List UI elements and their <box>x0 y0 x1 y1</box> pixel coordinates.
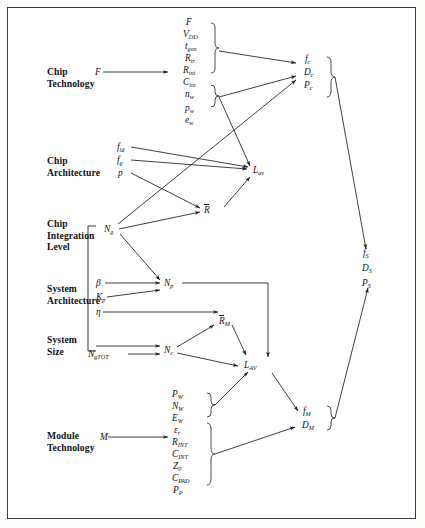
param-Ng: Ng <box>104 224 113 237</box>
node-L-AV: LAV <box>244 360 256 373</box>
param-F: F <box>186 17 192 28</box>
input-var-M: M <box>100 432 108 443</box>
edge-p-to-R-bar <box>131 173 200 208</box>
node-R-bar: R <box>204 205 210 216</box>
node-N-c: Nc <box>164 345 173 358</box>
edge-Kp-to-Np <box>107 290 160 297</box>
label-line-2: Technology <box>47 78 95 89</box>
edge-module-outputs-to-system-outputs <box>335 288 368 418</box>
edge-fg-to-L-av <box>131 160 247 169</box>
brace-module-lower <box>207 423 215 485</box>
node-L-av: Lav <box>253 165 264 178</box>
param-ew: ew <box>185 115 193 128</box>
output-PS: PS <box>362 278 371 291</box>
node-R-bar-M: RM <box>219 316 230 329</box>
label-line-1: System <box>47 334 77 345</box>
param-NgTOT: NgTOT <box>88 349 109 362</box>
edge-pw-ew-to-L-av <box>219 97 250 166</box>
output-Dc: Dc <box>304 67 314 80</box>
param-nw: nw <box>185 89 194 102</box>
label-line-2: Technology <box>47 442 95 453</box>
brace-module-outputs <box>327 406 335 430</box>
edge-fld-to-L-av <box>131 147 248 167</box>
label-line-1: Chip <box>47 155 68 166</box>
edge-Ng-to-Np <box>120 234 160 280</box>
row-label-system-size: SystemSize <box>47 334 77 357</box>
brace-module-upper <box>207 393 215 417</box>
label-line-1: Module <box>47 430 79 441</box>
figure-canvas: ChipTechnology ChipArchitecture ChipInte… <box>0 0 425 528</box>
row-label-chip-architecture: ChipArchitecture <box>47 155 100 178</box>
label-line-2: Integration <box>47 230 94 241</box>
brace-chip-tech-upper <box>211 23 219 73</box>
output-fM: fM <box>303 406 311 419</box>
param-beta: β <box>96 278 101 289</box>
edge-Nc-to-L-AV <box>177 353 238 366</box>
row-label-chip-technology: ChipTechnology <box>47 66 95 89</box>
edge-L-AV-to-module-outputs <box>272 373 298 411</box>
row-label-system-architecture: SystemArchitecture <box>47 283 100 306</box>
label-line-1: Chip <box>47 218 68 229</box>
output-fS: fS <box>363 248 369 261</box>
label-line-2: Architecture <box>47 295 100 306</box>
edge-module-lower-to-module-outputs <box>215 427 295 454</box>
label-line-2: Size <box>47 346 64 357</box>
param-eta: η <box>96 307 101 318</box>
edge-Ng-to-chip-outputs <box>118 80 296 224</box>
param-PP: PP <box>173 485 183 498</box>
label-line-1: System <box>47 283 77 294</box>
output-DS: DS <box>362 263 372 276</box>
edge-chip-outputs-to-system-outputs <box>335 77 366 249</box>
brace-chip-tech-lower <box>211 85 219 107</box>
edge-Nc-to-R-bar-M <box>177 325 214 347</box>
input-var-F: F <box>95 67 101 78</box>
edge-Ng-to-R-bar <box>119 212 200 229</box>
label-line-2: Architecture <box>47 167 100 178</box>
row-label-module-technology: ModuleTechnology <box>47 430 95 453</box>
node-N-p: Np <box>164 278 173 291</box>
param-p: p <box>118 168 123 179</box>
output-DM: DM <box>302 420 314 433</box>
edge-chip-params-to-chip-outputs <box>219 51 296 63</box>
row-label-chip-integration: ChipIntegrationLevel <box>47 218 94 253</box>
edge-pw-ew-to-chip-outputs <box>219 76 296 97</box>
param-fld: fld <box>117 142 124 155</box>
output-fc: fc <box>305 54 310 67</box>
label-line-3: Level <box>47 241 70 252</box>
edge-R-bar-to-L-av <box>224 177 250 207</box>
brace-chip-outputs <box>327 57 335 97</box>
label-line-1: Chip <box>47 66 68 77</box>
output-Pc: Pc <box>304 80 312 93</box>
edge-module-upper-to-L-AV <box>215 372 248 405</box>
param-fg: fg <box>117 155 123 168</box>
param-Kp: Kp <box>96 292 105 305</box>
edge-R-bar-M-to-L-AV <box>232 325 246 355</box>
